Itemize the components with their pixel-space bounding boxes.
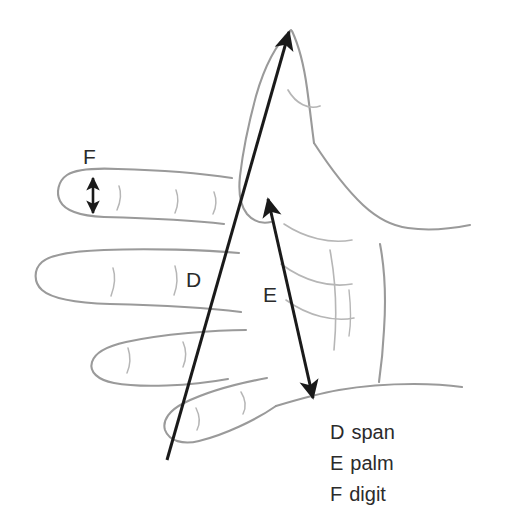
hand-measurement-figure: [0, 0, 507, 531]
legend: Dspan Epalm Fdigit: [330, 419, 395, 512]
little-finger-crease-1: [196, 408, 199, 430]
ring-finger-crease-2: [183, 342, 186, 367]
legend-key-F: F: [330, 483, 342, 505]
legend-key-E: E: [330, 452, 343, 474]
palm-crease-thenar-short: [349, 290, 351, 336]
wrist-base-line: [276, 384, 462, 406]
legend-row: Dspan: [330, 419, 395, 450]
diagram-label-D: D: [186, 269, 201, 290]
diagram-label-F: F: [83, 146, 96, 167]
palm-right-edge: [314, 143, 470, 229]
legend-key-D: D: [330, 421, 344, 443]
middle-finger-crease-2: [174, 266, 177, 295]
little-finger-crease-2: [241, 392, 245, 414]
thumb-outline: [239, 30, 291, 223]
thumb-knuckle-crease: [288, 90, 320, 107]
palm-lower-right-edge: [379, 244, 385, 382]
index-finger-outline: [58, 169, 232, 224]
thumb-inner-edge: [292, 31, 314, 143]
ring-finger-outline: [91, 330, 246, 386]
legend-row: Fdigit: [330, 481, 395, 512]
middle-finger-outline: [36, 249, 241, 312]
hand-outline: [36, 30, 470, 443]
arrow-span-D: [167, 32, 289, 460]
palm-crease-lower: [286, 300, 354, 319]
index-finger-crease-1: [117, 186, 120, 210]
middle-finger-crease-1: [111, 268, 114, 296]
diagram-label-E: E: [263, 284, 277, 305]
legend-name-span: span: [351, 421, 394, 443]
index-finger-crease-3: [213, 192, 216, 214]
legend-name-palm: palm: [350, 452, 393, 474]
index-finger-crease-2: [175, 190, 178, 213]
ring-finger-crease-1: [127, 348, 130, 373]
legend-row: Epalm: [330, 450, 395, 481]
palm-crease-upper: [284, 224, 352, 241]
palm-crease-middle: [281, 264, 352, 285]
legend-name-digit: digit: [349, 483, 386, 505]
palm-crease-thenar: [330, 250, 336, 350]
